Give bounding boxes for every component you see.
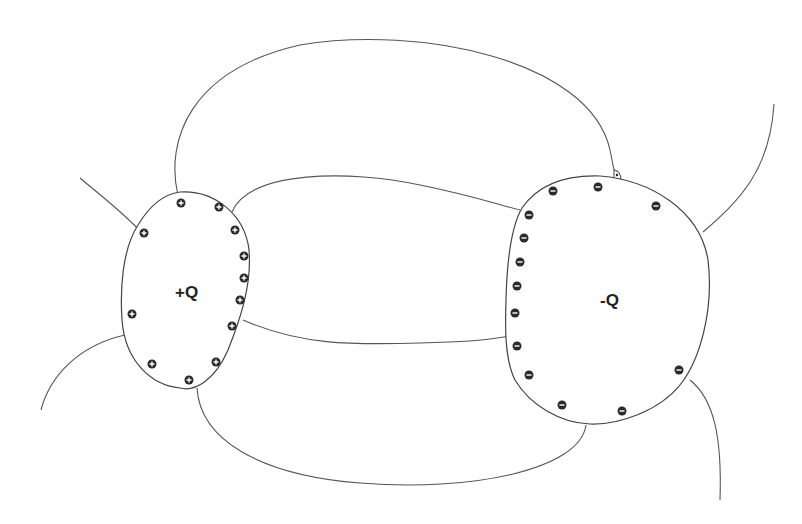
charge-plus-icon (240, 252, 249, 261)
charge-minus-icon (558, 401, 567, 410)
field-line-bottom (197, 388, 586, 485)
charge-minus-icon (525, 211, 534, 220)
field-line-right-lower (690, 380, 720, 500)
charge-plus-icon (185, 376, 194, 385)
charge-minus-icon (652, 202, 661, 211)
field-line-left-upper (80, 178, 138, 229)
label-positive: +Q (175, 283, 198, 302)
right-angle-dot-icon (616, 174, 618, 176)
charge-minus-icon (675, 366, 684, 375)
charge-minus-icon (520, 234, 529, 243)
charge-plus-icon (228, 322, 237, 331)
charge-minus-icon (516, 258, 525, 267)
charge-plus-icon (236, 296, 245, 305)
charge-plus-icon (140, 229, 149, 238)
charge-plus-icon (215, 203, 224, 212)
charge-plus-icon (177, 199, 186, 208)
charge-minus-icon (511, 309, 520, 318)
charge-plus-icon (128, 310, 137, 319)
charge-minus-icon (525, 371, 534, 380)
charge-plus-icon (148, 360, 157, 369)
charge-plus-icon (240, 274, 249, 283)
conductor-positive: +Q (121, 192, 249, 389)
charge-minus-icon (513, 342, 522, 351)
field-line-right-upper (703, 104, 774, 232)
field-line-middle (243, 320, 510, 344)
charge-minus-icon (618, 407, 627, 416)
field-line-left-lower (41, 335, 125, 410)
charge-plus-icon (212, 358, 221, 367)
charge-minus-icon (549, 187, 558, 196)
label-negative: -Q (600, 291, 619, 310)
conductor-negative: -Q (506, 170, 710, 424)
charge-minus-icon (513, 282, 522, 291)
field-line-top-outer (175, 40, 614, 196)
charge-minus-icon (594, 183, 603, 192)
charge-plus-icon (231, 226, 240, 235)
field-line-top-inner (232, 176, 520, 212)
field-line-diagram: +Q -Q (0, 0, 802, 524)
